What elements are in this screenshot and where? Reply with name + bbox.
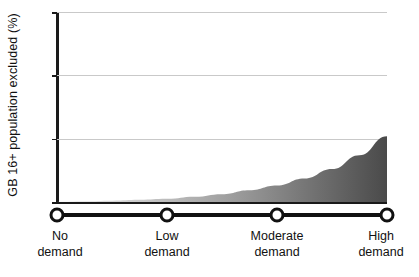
gridline-0 [57, 202, 387, 204]
x-axis-node-no-demand[interactable] [50, 208, 65, 223]
x-label-line-1: Low [156, 229, 179, 243]
x-label-line-1: No [52, 229, 68, 243]
x-label-line-2: demand [144, 244, 189, 260]
plot-area [57, 12, 387, 202]
y-axis-title: GB 16+ population excluded (%) [0, 0, 26, 210]
x-axis-node-moderate-demand[interactable] [270, 208, 285, 223]
x-label-line-1: Moderate [251, 229, 304, 243]
area-path [57, 136, 387, 202]
x-axis-connector-line [57, 213, 387, 217]
chart-container: GB 16+ population excluded (%) 051015 No… [0, 0, 419, 277]
x-axis [0, 205, 419, 227]
x-label-line-1: High [368, 229, 394, 243]
x-axis-node-high-demand[interactable] [380, 208, 395, 223]
x-axis-label-low-demand: Lowdemand [144, 228, 189, 260]
x-label-line-2: demand [37, 244, 82, 260]
area-series [57, 12, 387, 202]
x-axis-label-no-demand: Nodemand [37, 228, 82, 260]
x-axis-label-high-demand: Highdemand [358, 228, 403, 260]
x-label-line-2: demand [358, 244, 403, 260]
x-axis-node-low-demand[interactable] [160, 208, 175, 223]
y-axis-title-text: GB 16+ population excluded (%) [6, 13, 20, 196]
x-label-line-2: demand [251, 244, 304, 260]
x-axis-label-moderate-demand: Moderatedemand [251, 228, 304, 260]
